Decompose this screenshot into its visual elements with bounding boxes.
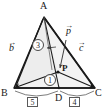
area-ratio-upper: 3 [32, 39, 44, 51]
point-p-dot [56, 70, 59, 73]
area-ratio-lower: 1 [44, 74, 56, 86]
brace-dc [60, 91, 94, 96]
vertex-label-a: A [40, 1, 47, 11]
point-d-dot [58, 87, 60, 89]
segment-ratio-bd: 5 [27, 97, 38, 107]
vertex-label-c: C [95, 88, 102, 98]
vector-b-arrow-glyph: → [8, 39, 16, 47]
vector-geometry-figure: A B C D P → b → c → p 3 1 5 4 [0, 0, 104, 112]
vector-p-arrow-glyph: → [65, 22, 73, 30]
vector-label-b: → b [9, 43, 14, 53]
vertex-label-b: B [1, 88, 8, 98]
figure-canvas [0, 0, 104, 112]
point-label-p: P [62, 64, 68, 73]
brace-bd [15, 91, 58, 96]
vertex-label-d: D [55, 93, 62, 103]
vector-label-p: → p [66, 26, 71, 36]
segment-ratio-dc: 4 [69, 97, 80, 107]
vector-c-arrow-glyph: → [78, 39, 86, 47]
vector-label-c: → c [79, 43, 83, 53]
